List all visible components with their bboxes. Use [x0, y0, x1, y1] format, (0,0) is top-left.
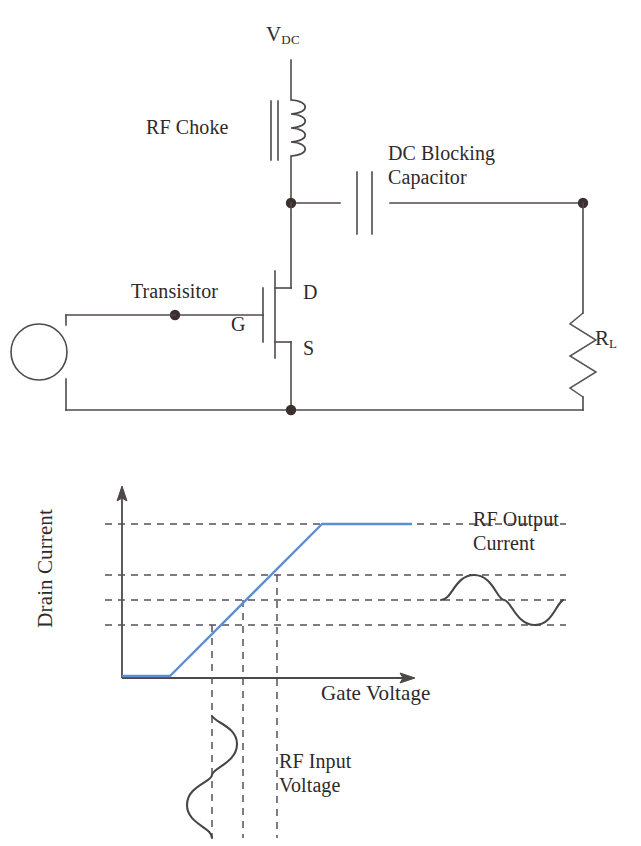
rf-output-current-label: RF Output Current — [473, 508, 559, 555]
rf-input-voltage-label-line1: RF Input — [279, 750, 351, 772]
circuit-schematic — [11, 60, 596, 415]
transistor-label: Transisitor — [131, 280, 218, 304]
source-terminal-label: S — [303, 337, 314, 361]
supply-voltage-subscript: DC — [281, 32, 300, 47]
dc-blocking-capacitor-label: DC Blocking Capacitor — [388, 142, 495, 189]
ac-source-network — [11, 315, 291, 410]
drain-terminal-label: D — [303, 281, 318, 305]
rf-choke-inductor — [271, 100, 305, 203]
rf-output-current-label-line2: Current — [473, 532, 559, 556]
dc-blocking-capacitor-label-line2: Capacitor — [388, 166, 495, 190]
figure-canvas — [0, 0, 641, 846]
rf-input-voltage-label-line2: Voltage — [279, 774, 351, 798]
supply-voltage-symbol: V — [266, 22, 281, 46]
figure-root: VDC RF Choke DC Blocking Capacitor Trans… — [0, 0, 641, 846]
rf-input-voltage-label: RF Input Voltage — [279, 750, 351, 797]
load-resistor-branch — [570, 203, 596, 410]
load-resistor-label: RL — [595, 326, 617, 351]
rf-output-current-label-line1: RF Output — [473, 508, 559, 530]
y-axis-label: Drain Current — [33, 488, 58, 648]
dc-blocking-capacitor-label-line1: DC Blocking — [388, 142, 495, 164]
dc-blocking-capacitor — [357, 172, 372, 234]
load-resistor-zigzag — [570, 313, 596, 397]
load-resistor-symbol: R — [595, 326, 609, 350]
ground-node-dot — [286, 405, 296, 415]
ac-source-circle — [11, 324, 67, 380]
x-axis-label: Gate Voltage — [321, 681, 430, 706]
load-resistor-subscript: L — [609, 336, 617, 351]
supply-voltage-label: VDC — [266, 22, 300, 47]
rf-choke-label: RF Choke — [146, 116, 228, 140]
gate-terminal-label: G — [231, 313, 246, 337]
inductor-coil — [291, 100, 305, 156]
y-axis — [117, 486, 127, 678]
